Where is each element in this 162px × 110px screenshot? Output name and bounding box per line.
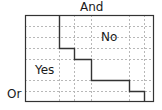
staircase-boundary: [60, 16, 145, 102]
left-label-or: Or: [7, 88, 21, 100]
grid-lines: [25, 15, 154, 102]
top-label-and: And: [80, 1, 103, 13]
outer-box: [26, 16, 154, 102]
region-label-yes: Yes: [35, 64, 54, 76]
decision-diagram: [0, 0, 162, 110]
region-label-no: No: [101, 31, 117, 43]
